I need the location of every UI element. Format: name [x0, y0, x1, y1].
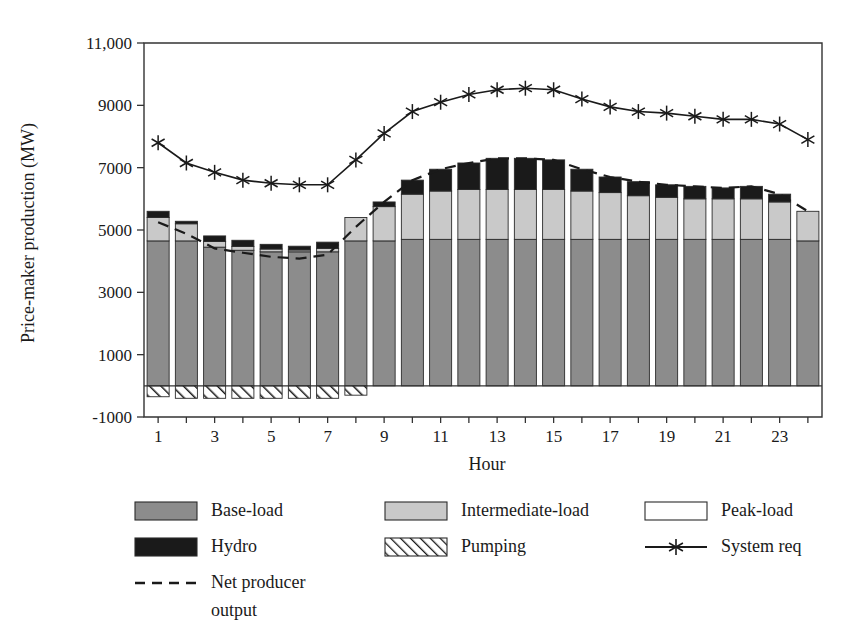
legend-label: Net producer	[211, 572, 305, 592]
bar-segment-base-load	[656, 239, 678, 385]
bar-segment-base-load	[797, 241, 819, 386]
bar-segment-base-load	[147, 241, 169, 386]
bar-segment-base-load	[543, 239, 565, 385]
x-tick-label: 9	[380, 427, 389, 446]
x-tick-label: 19	[658, 427, 675, 446]
system-req-marker	[575, 92, 588, 107]
bar-segment-hydro	[571, 169, 593, 191]
legend-label: Pumping	[461, 536, 526, 556]
bar-segment-intermediate-load	[317, 248, 339, 251]
bar-segment-intermediate-load	[712, 199, 734, 240]
y-tick-label: 3000	[98, 283, 132, 302]
bar-segment-hydro	[740, 186, 762, 198]
legend-item-system-req[interactable]: System req	[645, 536, 802, 556]
x-axis-tick-labels: 1357911131517192123	[154, 427, 788, 446]
bar-segment-hydro	[175, 221, 197, 223]
legend-label: System req	[721, 536, 802, 556]
x-tick-label: 7	[323, 427, 332, 446]
y-tick-label: 9000	[98, 96, 132, 115]
bar-segment-base-load	[175, 241, 197, 386]
x-axis-title: Hour	[469, 454, 506, 474]
bar-segment-base-load	[373, 241, 395, 386]
bar-segment-base-load	[571, 239, 593, 385]
bar-segment-intermediate-load	[740, 199, 762, 240]
bar-segment-pumping	[147, 386, 169, 397]
system-req-line	[152, 81, 815, 193]
y-axis-tick-labels: -10001000300050007000900011,000	[86, 34, 132, 427]
legend-swatch	[645, 502, 707, 520]
bar-segment-intermediate-load	[486, 189, 508, 239]
bar-segment-pumping	[260, 386, 282, 398]
bar-segment-base-load	[769, 239, 791, 385]
bar-segment-hydro	[486, 158, 508, 189]
bar-segment-base-load	[458, 239, 480, 385]
bar-segment-hydro	[627, 182, 649, 196]
x-tick-label: 21	[715, 427, 732, 446]
system-req-marker	[406, 104, 419, 119]
legend-label-line2: output	[211, 600, 257, 620]
y-tick-label: 5000	[98, 221, 132, 240]
bar-segment-pumping	[345, 386, 367, 395]
legend-item-pumping[interactable]: Pumping	[385, 536, 526, 556]
bar-segment-hydro	[712, 188, 734, 199]
legend-item-intermediate-load[interactable]: Intermediate-load	[385, 500, 589, 520]
x-tick-label: 13	[489, 427, 506, 446]
y-tick-label: 7000	[98, 159, 132, 178]
legend-label: Hydro	[211, 536, 257, 556]
system-req-marker	[180, 155, 193, 170]
bar-segment-intermediate-load	[514, 189, 536, 239]
bar-segment-pumping	[317, 386, 339, 398]
bar-segment-pumping	[204, 386, 226, 398]
legend-label: Base-load	[211, 500, 283, 520]
bar-segment-base-load	[740, 239, 762, 385]
bar-segment-intermediate-load	[204, 242, 226, 248]
legend-swatch	[385, 502, 447, 520]
legend-item-net-producer[interactable]: Net produceroutput	[135, 572, 305, 620]
chart-page: -10001000300050007000900011,000 13579111…	[0, 0, 851, 637]
x-tick-label: 3	[210, 427, 219, 446]
bar-segment-hydro	[260, 244, 282, 249]
price-maker-production-chart: -10001000300050007000900011,000 13579111…	[0, 0, 851, 637]
x-tick-label: 15	[545, 427, 562, 446]
bar-segment-base-load	[684, 239, 706, 385]
legend-swatch	[135, 538, 197, 556]
bar-segment-base-load	[345, 241, 367, 386]
system-req-marker	[208, 165, 221, 180]
system-req-marker	[434, 95, 447, 110]
legend-item-hydro[interactable]: Hydro	[135, 536, 257, 556]
bar-segment-base-load	[288, 252, 310, 386]
bar-segment-base-load	[599, 239, 621, 385]
bar-segment-base-load	[204, 247, 226, 386]
bar-segment-pumping	[232, 386, 254, 398]
bar-segment-base-load	[260, 252, 282, 386]
net-producer-output-polyline	[158, 158, 808, 258]
bar-segment-hydro	[514, 158, 536, 189]
bar-segment-intermediate-load	[684, 199, 706, 240]
bar-segment-intermediate-load	[458, 189, 480, 239]
legend-item-base-load[interactable]: Base-load	[135, 500, 283, 520]
bar-segment-hydro	[204, 236, 226, 242]
bar-segment-pumping	[288, 386, 310, 398]
system-req-marker	[801, 132, 814, 147]
y-tick-label: -1000	[92, 408, 132, 427]
y-tick-label: 1000	[98, 346, 132, 365]
x-axis-ticks	[158, 417, 808, 423]
legend-swatch-hatched	[385, 538, 447, 556]
bar-segment-intermediate-load	[147, 218, 169, 241]
bar-segment-intermediate-load	[656, 197, 678, 239]
bar-segment-base-load	[430, 239, 452, 385]
bar-segment-hydro	[232, 240, 254, 246]
bar-segment-intermediate-load	[769, 202, 791, 239]
x-tick-label: 17	[602, 427, 620, 446]
y-axis-title: Price-maker production (MW)	[18, 123, 39, 343]
bar-segment-intermediate-load	[571, 191, 593, 239]
system-req-marker	[152, 135, 165, 150]
chart-legend: Base-loadIntermediate-loadPeak-loadHydro…	[135, 500, 802, 620]
bar-segment-hydro	[458, 163, 480, 189]
legend-item-peak-load[interactable]: Peak-load	[645, 500, 793, 520]
bar-segment-base-load	[486, 239, 508, 385]
bar-segment-base-load	[401, 239, 423, 385]
bar-segment-hydro	[543, 160, 565, 190]
x-tick-label: 5	[267, 427, 276, 446]
bar-segment-base-load	[232, 250, 254, 386]
